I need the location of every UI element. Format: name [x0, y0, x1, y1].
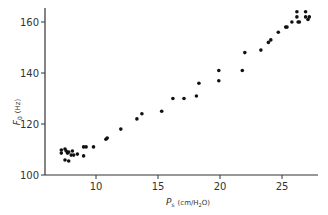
y-tick-label: 140 [20, 68, 39, 79]
y-axis-label: F0(Hz) [12, 99, 23, 126]
data-point [298, 20, 302, 24]
data-point [82, 154, 86, 158]
data-point [217, 69, 221, 73]
data-point [105, 136, 109, 140]
data-point [119, 127, 123, 131]
data-point [182, 97, 186, 101]
scatter-chart: 10152025 100120140160 F0(Hz) Ps(cm/H2O) [0, 0, 328, 215]
data-point [71, 149, 75, 153]
data-point [76, 152, 80, 156]
data-point [160, 110, 164, 114]
data-point [197, 81, 201, 85]
data-point [217, 79, 221, 83]
data-point [195, 94, 199, 98]
data-point [60, 151, 64, 155]
data-point [67, 159, 71, 163]
data-point [92, 145, 96, 149]
data-point [241, 69, 245, 73]
x-tick-label: 25 [276, 181, 289, 192]
data-point [63, 158, 67, 162]
data-point [72, 153, 76, 157]
data-point [60, 148, 64, 152]
data-point [269, 38, 273, 42]
data-point [67, 150, 71, 154]
data-point [290, 20, 294, 24]
data-point [295, 10, 299, 14]
data-points [60, 10, 312, 163]
y-ticks: 100120140160 [20, 17, 45, 181]
x-ticks: 10152025 [90, 175, 289, 192]
y-tick-label: 100 [20, 170, 39, 181]
data-point [171, 97, 175, 101]
data-point [259, 48, 263, 52]
data-point [135, 117, 139, 121]
data-point [285, 25, 289, 29]
y-tick-label: 160 [20, 17, 39, 28]
x-tick-label: 15 [152, 181, 165, 192]
data-point [140, 112, 144, 116]
x-tick-label: 10 [90, 181, 103, 192]
data-point [295, 15, 299, 19]
x-axis-label: Ps(cm/H2O) [166, 197, 210, 208]
data-point [243, 51, 247, 55]
data-point [277, 30, 281, 34]
data-point [84, 145, 88, 149]
x-tick-label: 20 [214, 181, 227, 192]
data-point [304, 10, 308, 14]
data-point [306, 18, 310, 22]
